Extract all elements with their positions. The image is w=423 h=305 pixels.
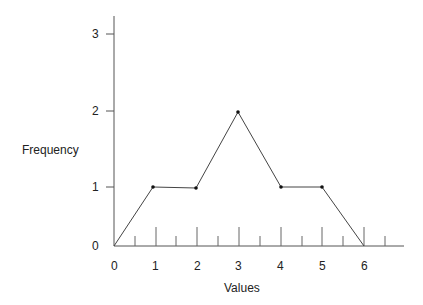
x-tick-label: 0 xyxy=(111,259,118,273)
x-tick-label: 1 xyxy=(152,259,159,273)
y-axis-title: Frequency xyxy=(22,143,79,157)
y-tick-label: 0 xyxy=(92,239,99,253)
x-tick-label: 3 xyxy=(235,259,242,273)
x-tick-label: 5 xyxy=(319,259,326,273)
data-points xyxy=(151,110,324,190)
y-ticks xyxy=(106,34,114,187)
frequency-polygon-chart: 3 2 1 0 0 1 2 3 4 5 6 Values Frequency xyxy=(0,0,423,305)
x-tick-label: 4 xyxy=(277,259,284,273)
frequency-polygon-line xyxy=(114,112,364,246)
x-ticks xyxy=(135,227,385,246)
y-tick-label: 2 xyxy=(92,104,99,118)
x-tick-label: 2 xyxy=(194,259,201,273)
y-tick-label: 1 xyxy=(92,180,99,194)
x-tick-label: 6 xyxy=(361,259,368,273)
y-tick-label: 3 xyxy=(92,27,99,41)
x-axis-title: Values xyxy=(224,281,260,295)
